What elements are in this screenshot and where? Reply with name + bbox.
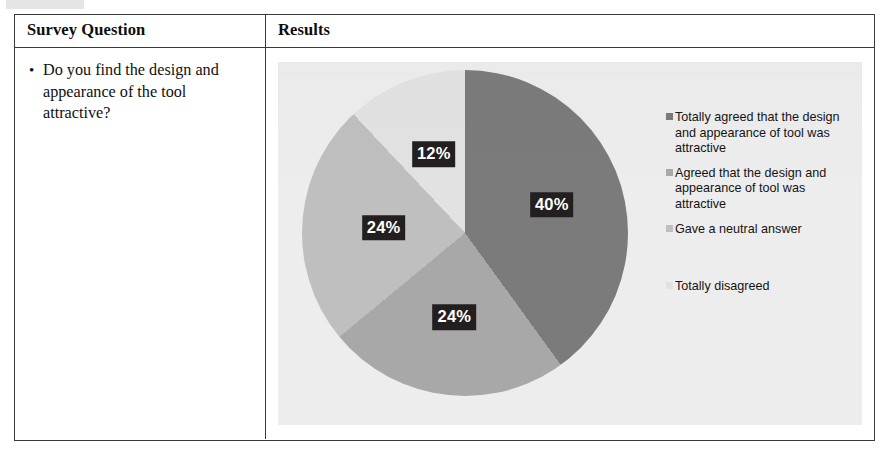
legend-swatch-icon-2 — [666, 225, 673, 232]
table-body-row: • Do you find the design and appearance … — [15, 48, 874, 439]
scan-artifact — [6, 0, 84, 9]
pie-data-label-3: 12% — [412, 141, 456, 167]
legend-swatch-icon-1 — [666, 169, 673, 176]
pie-slices — [302, 70, 628, 396]
list-item: • Do you find the design and appearance … — [29, 60, 255, 125]
survey-results-table: Survey Question Results • Do you find th… — [14, 14, 875, 441]
legend-item-0: Totally agreed that the design and appea… — [666, 110, 850, 157]
column-header-results: Results — [266, 15, 874, 40]
column-header-survey-question: Survey Question — [15, 15, 265, 40]
cell-results: 40% 24% 24% 12% Totally agreed that the … — [266, 48, 874, 439]
legend-item-2: Gave a neutral answer — [666, 222, 850, 238]
legend-swatch-icon-3 — [666, 282, 673, 289]
legend-label-0: Totally agreed that the design and appea… — [675, 110, 850, 157]
pie-chart-figure: 40% 24% 24% 12% Totally agreed that the … — [278, 62, 862, 425]
pie-chart-plot-area: 40% 24% 24% 12% — [302, 70, 628, 396]
chart-legend: Totally agreed that the design and appea… — [666, 110, 850, 304]
cell-survey-question: • Do you find the design and appearance … — [15, 48, 266, 439]
header-cell-survey-question: Survey Question — [15, 15, 266, 47]
pie-data-label-2: 24% — [362, 215, 406, 241]
legend-item-3: Totally disagreed — [666, 279, 850, 295]
pie-data-label-1: 24% — [433, 304, 477, 330]
table-header-row: Survey Question Results — [15, 15, 874, 48]
header-cell-results: Results — [266, 15, 874, 47]
bullet-icon: • — [29, 61, 43, 81]
legend-label-3: Totally disagreed — [675, 279, 850, 295]
legend-swatch-icon-0 — [666, 113, 673, 120]
pie-data-label-0: 40% — [530, 192, 574, 218]
legend-item-1: Agreed that the design and appearance of… — [666, 166, 850, 213]
question-text: Do you find the design and appearance of… — [43, 60, 255, 125]
legend-label-1: Agreed that the design and appearance of… — [675, 166, 850, 213]
legend-label-2: Gave a neutral answer — [675, 222, 850, 238]
question-list: • Do you find the design and appearance … — [15, 48, 265, 125]
